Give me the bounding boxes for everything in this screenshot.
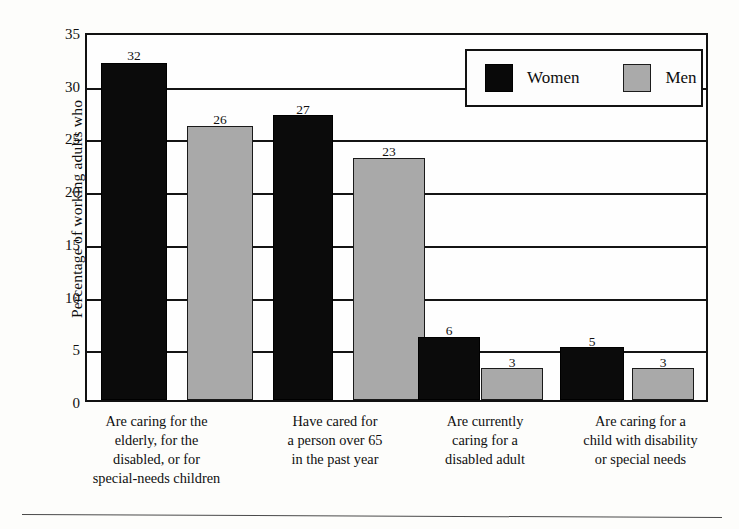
y-tick-label-35: 35 xyxy=(40,27,80,42)
y-tick-label-30: 30 xyxy=(40,80,80,95)
x-category-label-1: Are caring for the elderly, for the disa… xyxy=(64,412,249,488)
bar-women-group-1[interactable] xyxy=(101,63,167,400)
value-label-men-2: 23 xyxy=(353,145,425,159)
x-category-label-2-line-1: Have cared for xyxy=(255,412,415,431)
x-category-label-3-line-3: disabled adult xyxy=(412,450,558,469)
x-category-label-4-line-2: child with disability xyxy=(553,431,728,450)
bottom-horizontal-rule xyxy=(22,514,722,518)
x-category-label-1-line-2: elderly, for the xyxy=(64,431,249,450)
y-tick-label-15: 15 xyxy=(40,238,80,253)
x-category-label-1-line-1: Are caring for the xyxy=(64,412,249,431)
x-category-label-4-line-1: Are caring for a xyxy=(553,412,728,431)
y-tick-label-20: 20 xyxy=(40,185,80,200)
bar-men-group-1[interactable] xyxy=(187,126,253,400)
value-label-women-3: 6 xyxy=(418,324,480,338)
bar-men-group-4[interactable] xyxy=(632,368,694,400)
value-label-men-3: 3 xyxy=(481,356,543,370)
bar-women-group-2[interactable] xyxy=(273,115,333,400)
bar-chart-figure: Percentage of working adults who 35 30 2… xyxy=(0,0,739,529)
black-swatch-icon xyxy=(485,64,513,92)
x-category-label-2-line-2: a person over 65 xyxy=(255,431,415,450)
x-category-label-4: Are caring for a child with disability o… xyxy=(553,412,728,469)
legend-label-women: Women xyxy=(527,68,579,88)
gridline-25 xyxy=(87,140,706,142)
bar-women-group-4[interactable] xyxy=(560,347,624,400)
bar-men-group-3[interactable] xyxy=(481,368,543,400)
value-label-men-1: 26 xyxy=(187,113,253,127)
x-category-label-3: Are currently caring for a disabled adul… xyxy=(412,412,558,469)
x-category-label-3-line-1: Are currently xyxy=(412,412,558,431)
y-tick-label-25: 25 xyxy=(40,132,80,147)
x-category-label-1-line-3: disabled, or for xyxy=(64,450,249,469)
y-tick-label-0: 0 xyxy=(40,396,80,411)
gray-swatch-icon xyxy=(623,64,651,92)
x-category-label-4-line-3: or special needs xyxy=(553,450,728,469)
x-category-label-1-line-4: special-needs children xyxy=(64,469,249,488)
bar-men-group-2[interactable] xyxy=(353,158,425,401)
bar-women-group-3[interactable] xyxy=(418,337,480,400)
value-label-women-2: 27 xyxy=(273,103,333,117)
chart-legend[interactable]: Women Men xyxy=(465,49,703,107)
value-label-men-4: 3 xyxy=(632,356,694,370)
x-category-label-3-line-2: caring for a xyxy=(412,431,558,450)
y-tick-label-5: 5 xyxy=(40,343,80,358)
x-category-label-2-line-3: in the past year xyxy=(255,450,415,469)
value-label-women-1: 32 xyxy=(101,49,167,63)
legend-label-men: Men xyxy=(665,68,696,88)
legend-entry-women[interactable]: Women xyxy=(485,64,579,92)
legend-entry-men[interactable]: Men xyxy=(623,64,696,92)
y-tick-label-10: 10 xyxy=(40,291,80,306)
value-label-women-4: 5 xyxy=(560,335,624,349)
x-category-label-2: Have cared for a person over 65 in the p… xyxy=(255,412,415,469)
